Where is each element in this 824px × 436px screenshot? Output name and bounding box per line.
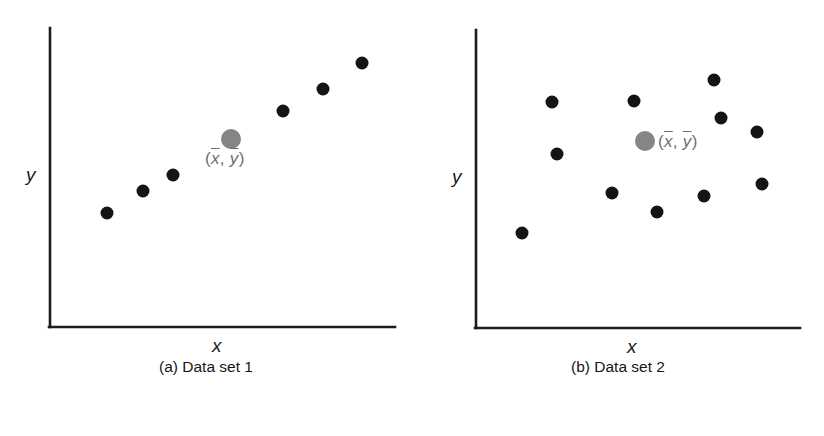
y-axis-label-b: y — [452, 167, 462, 186]
data-point — [356, 57, 369, 70]
x-bar-symbol: x — [664, 132, 673, 151]
panel-data-set-1: y x (x, y) — [0, 0, 412, 400]
centroid-label-b: (x, y) — [658, 133, 698, 150]
paren-close: ) — [239, 149, 245, 168]
data-point — [708, 74, 721, 87]
centroid-marker — [221, 129, 241, 149]
y-bar-symbol: y — [683, 132, 692, 151]
data-point — [516, 227, 529, 240]
data-point — [756, 178, 769, 191]
figure-container: y x (x, y) y x ( — [0, 0, 824, 436]
data-point — [546, 96, 559, 109]
data-point — [628, 95, 641, 108]
data-point — [651, 206, 664, 219]
centroid-marker — [635, 131, 655, 151]
data-point — [137, 185, 150, 198]
y-axis-label-a: y — [26, 165, 36, 184]
data-point — [277, 105, 290, 118]
comma-separator: , — [220, 149, 230, 168]
comma-separator: , — [673, 132, 683, 151]
x-axis-label-b: x — [627, 337, 637, 356]
y-bar-symbol: y — [230, 149, 239, 168]
centroid-label-a: (x, y) — [205, 150, 245, 167]
data-point — [317, 83, 330, 96]
x-axis-label-a: x — [212, 336, 222, 355]
data-point — [606, 187, 619, 200]
caption-data-set-1: (a) Data set 1 — [0, 358, 412, 376]
data-point — [715, 112, 728, 125]
scatter-plot-b — [412, 0, 824, 400]
caption-data-set-2: (b) Data set 2 — [412, 358, 824, 376]
data-point — [698, 190, 711, 203]
data-point — [751, 126, 764, 139]
data-point — [551, 148, 564, 161]
x-bar-symbol: x — [211, 149, 220, 168]
data-point — [167, 169, 180, 182]
data-point — [101, 207, 114, 220]
panel-data-set-2: y x (x, y) — [412, 0, 824, 400]
scatter-plot-a — [0, 0, 412, 400]
paren-close: ) — [692, 132, 698, 151]
